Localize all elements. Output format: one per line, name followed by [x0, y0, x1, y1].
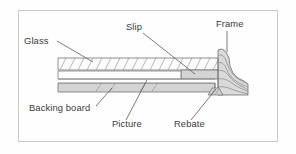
slip-part — [181, 70, 219, 79]
glass-layer — [58, 58, 219, 70]
backing-board-layer — [58, 83, 215, 92]
label-rebate: Rebate — [174, 118, 205, 129]
label-glass: Glass — [24, 35, 49, 46]
rebate-leader-line — [191, 89, 216, 120]
figure-root: Glass Slip Frame Backing board Picture R… — [0, 0, 296, 154]
label-backing-board: Backing board — [29, 102, 90, 113]
label-picture: Picture — [112, 118, 142, 129]
label-frame: Frame — [216, 18, 244, 29]
frame-cross-section-diagram: Glass Slip Frame Backing board Picture R… — [0, 0, 296, 154]
label-slip: Slip — [126, 21, 142, 32]
